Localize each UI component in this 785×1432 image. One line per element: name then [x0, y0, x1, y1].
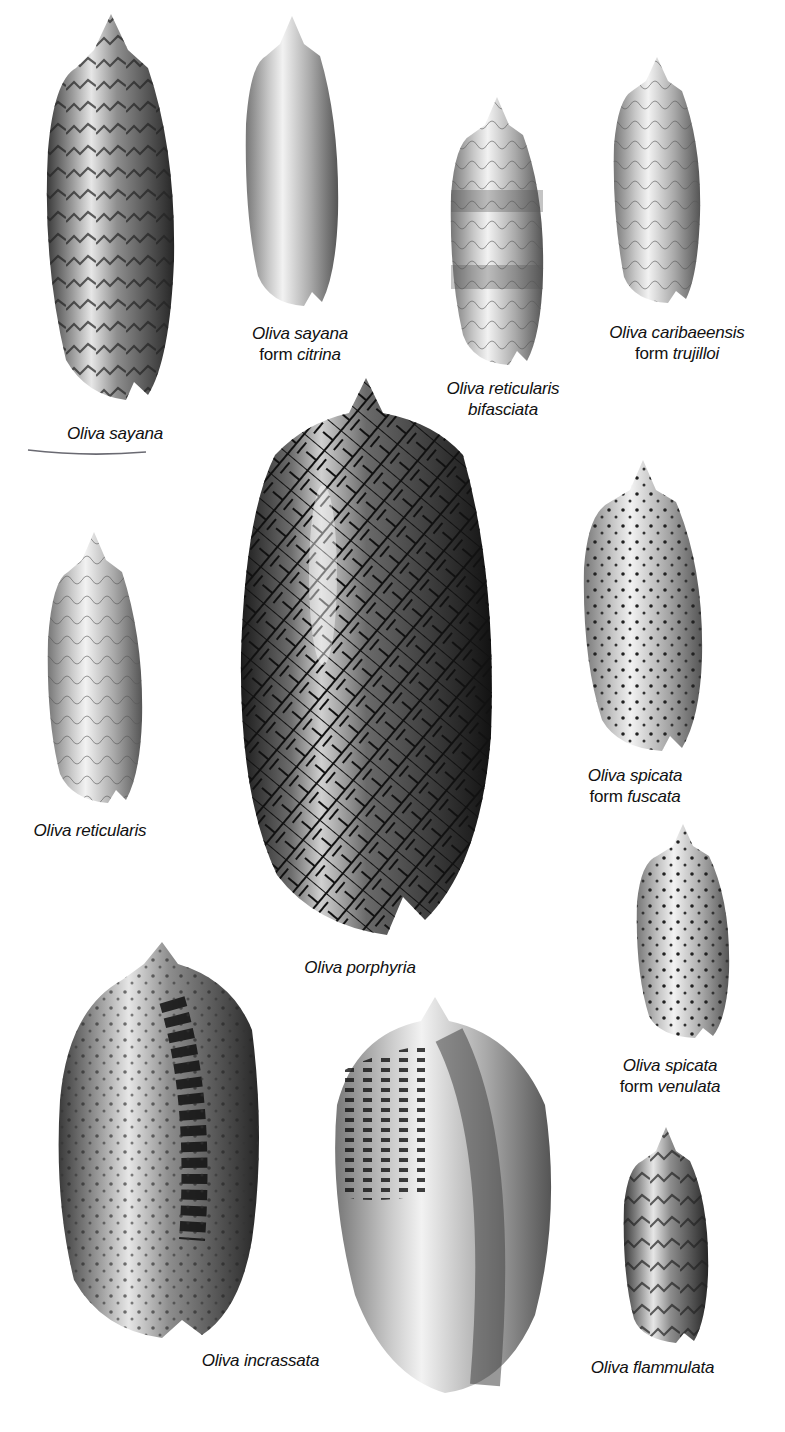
form-name: fuscata [627, 787, 680, 806]
species-name: Oliva incrassata [178, 1350, 343, 1371]
shell-oliva-caribaeensis-trujilloi [610, 55, 705, 305]
label-oliva-sayana: Oliva sayana [40, 423, 190, 444]
species-name: Oliva reticularis [10, 820, 170, 841]
label-oliva-reticularis: Oliva reticularis [10, 820, 170, 841]
species-name: Oliva caribaeensis [582, 322, 772, 343]
species-name: Oliva sayana [40, 423, 190, 444]
shell-oliva-incrassata-dorsal [52, 940, 267, 1340]
species-name: Oliva porphyria [280, 957, 440, 978]
form-prefix: form [635, 344, 668, 363]
form-name: venulata [658, 1077, 721, 1096]
label-oliva-incrassata: Oliva incrassata [178, 1350, 343, 1371]
form-prefix: form [589, 787, 622, 806]
shell-oliva-reticularis-bifasciata [447, 95, 547, 367]
species-name: Oliva spicata [560, 765, 710, 786]
species-name: Oliva spicata [590, 1055, 750, 1076]
shell-oliva-sayana [36, 10, 186, 405]
shell-oliva-spicata-fuscata [578, 458, 708, 753]
species-name: Oliva flammulata [565, 1357, 740, 1378]
form-name: trujilloi [673, 344, 719, 363]
label-oliva-caribaeensis-trujilloi: Oliva caribaeensis form trujilloi [582, 322, 772, 364]
shell-oliva-spicata-venulata [633, 822, 733, 1040]
form-prefix: form [259, 345, 292, 364]
shell-oliva-flammulata [620, 1125, 712, 1345]
pen-underline-annotation [26, 446, 151, 458]
label-oliva-flammulata: Oliva flammulata [565, 1357, 740, 1378]
form-prefix: form [620, 1077, 653, 1096]
label-oliva-spicata-venulata: Oliva spicata form venulata [590, 1055, 750, 1097]
species-name: Oliva sayana [220, 323, 380, 344]
label-oliva-spicata-fuscata: Oliva spicata form fuscata [560, 765, 710, 807]
shell-oliva-reticularis [42, 530, 147, 805]
shell-oliva-incrassata-ventral [325, 995, 560, 1395]
shell-oliva-porphyria [235, 375, 497, 940]
label-oliva-sayana-citrina: Oliva sayana form citrina [220, 323, 380, 365]
label-oliva-porphyria: Oliva porphyria [280, 957, 440, 978]
form-name: citrina [297, 345, 341, 364]
shell-oliva-sayana-citrina [240, 14, 345, 309]
